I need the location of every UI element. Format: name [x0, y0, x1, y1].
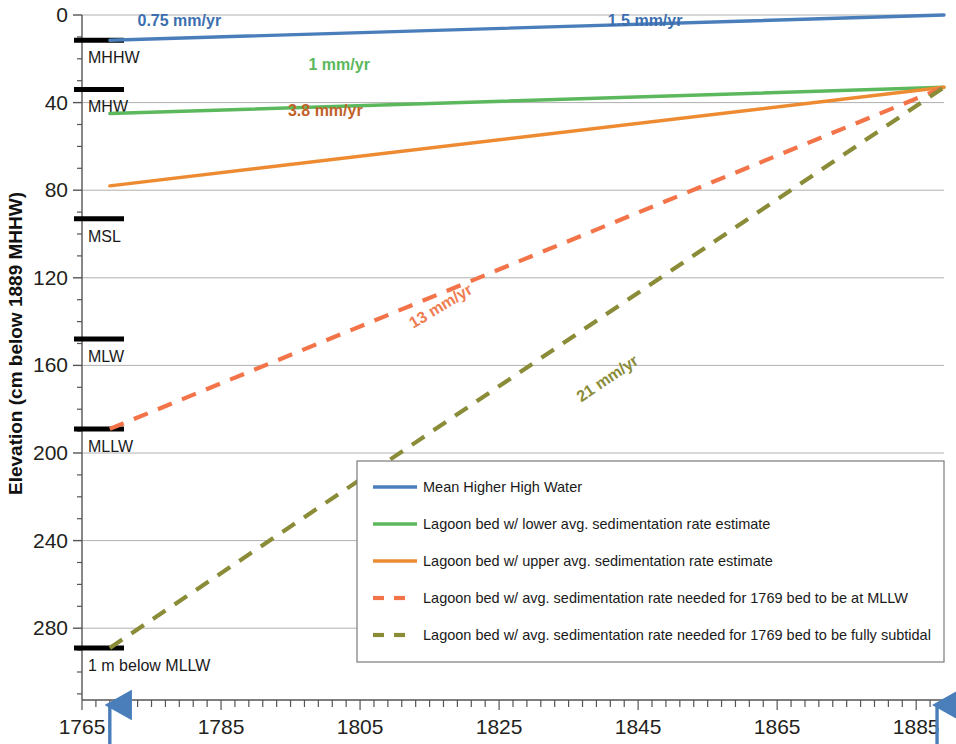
rate-annotation: 21 mm/yr: [573, 352, 641, 405]
y-axis-title: Elevation (cm below 1889 MHHW): [5, 192, 26, 495]
sedimentation-rate-line-chart: 04080120160200240280Elevation (cm below …: [0, 0, 956, 744]
rate-annotation: 13 mm/yr: [406, 281, 475, 332]
x-axis-tick-label: 1825: [476, 715, 523, 738]
y-axis-tick-label: 240: [33, 529, 68, 552]
tide-datum-label: 1 m below MLLW: [88, 657, 211, 674]
rate-annotation: 1.5 mm/yr: [608, 12, 683, 29]
series-line: [110, 15, 944, 40]
x-axis-tick-label: 1865: [754, 715, 801, 738]
chart-container: 04080120160200240280Elevation (cm below …: [0, 0, 956, 744]
legend-item-label: Lagoon bed w/ avg. sedimentation rate ne…: [423, 627, 931, 643]
legend-item-label: Lagoon bed w/ avg. sedimentation rate ne…: [423, 590, 908, 606]
x-axis-tick-label: 1805: [337, 715, 384, 738]
y-axis-tick-label: 280: [33, 616, 68, 639]
legend-item-label: Lagoon bed w/ lower avg. sedimentation r…: [423, 516, 770, 532]
x-axis-tick-label: 1845: [615, 715, 662, 738]
y-axis-tick-label: 200: [33, 441, 68, 464]
legend-item-label: Mean Higher High Water: [423, 479, 582, 495]
tide-datum-label: MLW: [88, 348, 125, 365]
y-axis-tick-label: 80: [45, 178, 68, 201]
y-axis-tick-label: 0: [56, 3, 68, 26]
rate-annotation: 3.8 mm/yr: [288, 102, 363, 119]
x-axis-tick-label: 1765: [59, 715, 106, 738]
y-axis-tick-label: 120: [33, 266, 68, 289]
tide-datum-label: MSL: [88, 228, 121, 245]
rate-annotation: 0.75 mm/yr: [138, 12, 222, 29]
x-axis-tick-label: 1885: [893, 715, 940, 738]
y-axis-tick-label: 40: [45, 91, 68, 114]
tide-datum-label: MHHW: [88, 49, 140, 66]
y-axis-tick-label: 160: [33, 353, 68, 376]
x-axis-tick-label: 1785: [198, 715, 245, 738]
tide-datum-label: MLLW: [88, 438, 134, 455]
series-line: [110, 87, 944, 429]
legend-item-label: Lagoon bed w/ upper avg. sedimentation r…: [423, 553, 773, 569]
rate-annotation: 1 mm/yr: [309, 56, 370, 73]
